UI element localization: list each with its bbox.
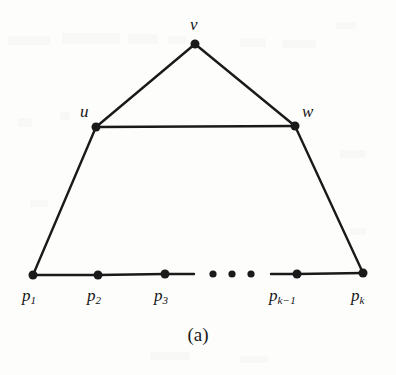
edge-v-w: [195, 44, 295, 126]
edge-u-p1: [33, 127, 96, 275]
edge-u-w: [96, 126, 295, 127]
path-point-label-p2: p2: [87, 287, 101, 304]
ellipsis-dot-2: [228, 270, 235, 277]
vertex-label-u: u: [80, 103, 89, 120]
edge-p2-p3: [98, 274, 165, 275]
ellipsis-dot-3: [247, 270, 254, 277]
vertex-dot-u: [92, 123, 101, 132]
edge-w-pk: [295, 126, 363, 273]
vertex-dot-w: [291, 122, 300, 131]
vertex-dot-v: [191, 40, 200, 49]
edges-group: [33, 44, 363, 275]
ellipsis-dots-group: [209, 270, 254, 277]
vertex-dots-group: [29, 40, 368, 280]
vertex-label-v: v: [190, 16, 198, 33]
path-point-label-p3: p3: [154, 287, 168, 304]
figure-caption: (a): [0, 325, 396, 344]
path-point-label-pk-1: pk−1: [269, 287, 296, 304]
path-point-dot-p2: [94, 271, 103, 280]
vertex-label-w: w: [302, 103, 313, 120]
path-point-label-pk: pk: [351, 287, 365, 304]
path-point-dot-pk: [359, 269, 368, 278]
path-point-dot-p1: [29, 271, 38, 280]
path-point-label-p1: p1: [22, 287, 36, 304]
edge-v-u: [96, 44, 195, 127]
path-point-dot-p3: [161, 270, 170, 279]
ellipsis-dot-1: [209, 270, 216, 277]
edge-pk-1-pk: [297, 273, 363, 274]
path-point-dot-pk-1: [293, 270, 302, 279]
graph-diagram: [0, 0, 396, 375]
figure-container: vuwp1p2p3pk−1pk (a): [0, 0, 396, 375]
